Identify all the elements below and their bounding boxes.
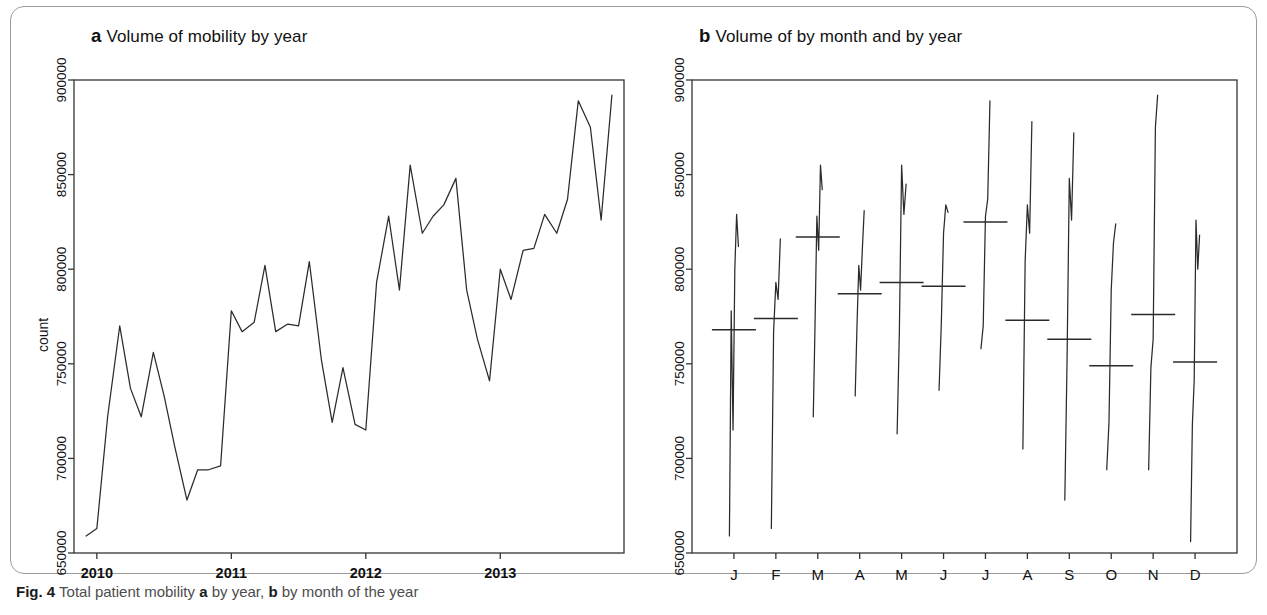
panel-a-x-tick-label: 2012 [350,565,382,581]
panel-b-x-tick-label: J [982,566,990,582]
panel-b-month-line [1191,220,1200,542]
panel-b-y-tick-label: 800000 [672,247,687,292]
panel-b-plot: 650000700000750000800000850000900000JFMA… [641,7,1258,582]
panel-a-data-line [86,95,612,536]
panel-b-month-line [897,165,906,434]
panel-a: aVolume of mobility by year count 650000… [11,7,641,573]
caption-panel-a-ref: a [199,583,207,600]
panel-b-y-tick-label: 850000 [672,152,687,197]
panel-b-month-line [771,239,780,528]
panel-b-x-tick-label: O [1105,566,1117,582]
panel-b-y-tick-label: 700000 [672,436,687,481]
panel-b-y-tick-label: 900000 [672,57,687,102]
panel-b-month-line [939,205,948,390]
panel-b-y-tick-label: 650000 [672,530,687,575]
panel-b-x-tick-label: S [1064,566,1074,582]
panel-b-month-line [813,165,822,417]
panel-a-plot: 6500007000007500008000008500009000002010… [11,7,641,582]
caption-text-3: by month of the year [278,583,419,600]
panel-b-y-tick-label: 750000 [672,341,687,386]
panel-b-x-tick-label: J [940,566,948,582]
panel-b-month-line [1065,133,1074,500]
caption-text-2: by year, [208,583,269,600]
panel-b-month-line [855,211,864,396]
panel-a-x-tick-label: 2013 [484,565,516,581]
caption-text-1: Total patient mobility [59,583,199,600]
panel-a-y-tick-label: 850000 [54,152,69,197]
panel-a-y-tick-label: 900000 [54,57,69,102]
panel-b-x-tick-label: A [1022,566,1032,582]
panel-a-x-tick-label: 2011 [216,565,247,581]
panel-b-x-tick-label: J [730,566,738,582]
caption-figure-number: Fig. 4 [16,583,55,600]
panel-b-month-line [1023,122,1032,449]
panel-a-y-tick-label: 650000 [54,530,69,575]
panel-b-month-line [1149,95,1158,470]
panel-b: bVolume of by month and by year 65000070… [641,7,1258,573]
panel-a-axes-frame [74,80,624,553]
panel-a-y-tick-label: 700000 [54,436,69,481]
panel-b-x-tick-label: M [895,566,908,582]
panel-b-x-tick-label: M [812,566,825,582]
figure-caption: Fig. 4 Total patient mobility a by year,… [16,583,418,600]
panel-b-x-tick-label: A [855,566,865,582]
panel-b-x-tick-label: D [1190,566,1201,582]
panel-b-month-line [981,101,990,349]
panel-a-y-tick-label: 750000 [54,341,69,386]
panel-b-x-tick-label: N [1148,566,1159,582]
panel-b-x-tick-label: F [771,566,780,582]
panel-a-y-tick-label: 800000 [54,247,69,292]
caption-panel-b-ref: b [268,583,277,600]
figure-card: aVolume of mobility by year count 650000… [10,6,1257,574]
panel-b-month-line [729,214,738,536]
panel-b-month-line [1107,224,1116,470]
panel-a-x-tick-label: 2010 [81,565,113,581]
